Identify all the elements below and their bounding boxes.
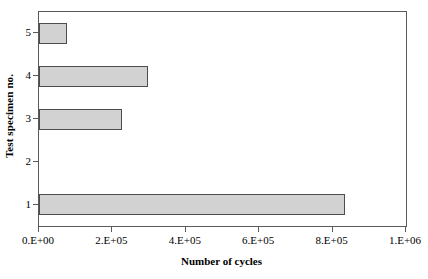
x-tick-label-3: 6.E+05 [242, 234, 274, 247]
x-axis-title: Number of cycles [38, 255, 405, 267]
y-tick-label-2: 2 [26, 155, 32, 166]
bar-specimen-4 [39, 66, 148, 87]
x-tick-label-1: 2.E+05 [95, 234, 127, 247]
y-tick-label-1: 1 [26, 198, 32, 209]
bar-specimen-1 [39, 194, 345, 215]
bar-specimen-3 [39, 109, 122, 130]
x-tick-mark-5 [405, 226, 406, 232]
y-tick-label-4: 4 [26, 70, 32, 81]
x-tick-label-0: 0.E+00 [22, 234, 54, 247]
y-axis-title-text: Test specimen no. [3, 74, 15, 158]
plot-area [38, 11, 407, 227]
y-tick-label-3: 3 [26, 113, 32, 124]
bar-specimen-5 [39, 23, 67, 44]
bar-chart: Test specimen no. 54321 0.E+002.E+054.E+… [0, 0, 428, 279]
x-axis-tick-labels: 0.E+002.E+054.E+056.E+058.E+051.E+06 [0, 234, 428, 250]
bars-layer [39, 12, 406, 226]
x-tick-mark-1 [111, 226, 112, 232]
x-axis-ticks [38, 226, 407, 232]
x-tick-mark-2 [185, 226, 186, 232]
x-tick-label-2: 4.E+05 [169, 234, 201, 247]
x-tick-mark-4 [332, 226, 333, 232]
x-tick-label-5: 1.E+06 [389, 234, 421, 247]
x-tick-mark-0 [38, 226, 39, 232]
x-tick-mark-3 [258, 226, 259, 232]
x-tick-label-4: 8.E+05 [316, 234, 348, 247]
y-tick-label-5: 5 [26, 27, 32, 38]
